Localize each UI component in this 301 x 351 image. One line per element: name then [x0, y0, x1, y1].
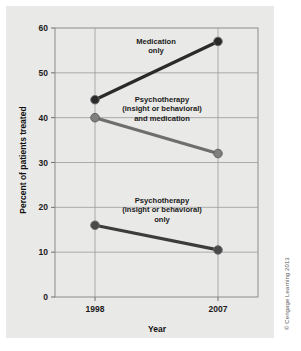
annotation-line-1: Psychotherapy [110, 196, 214, 205]
y-tick-label-50: 50 [26, 68, 48, 78]
data-point-psychotherapy-only-1998 [91, 221, 100, 230]
series-line-psychotherapy-only [95, 225, 218, 250]
series-annotation-medication-only: Medication only [114, 37, 198, 56]
series-annotation-psychotherapy-and-medication: Psychotherapy (insight or behavioral) an… [110, 95, 214, 123]
x-axis-ticks [95, 297, 218, 301]
annotation-line-3: and medication [110, 114, 214, 123]
data-point-psychotherapy-only-2007 [214, 246, 223, 255]
data-point-psychotherapy-and-medication-1998 [91, 113, 100, 122]
annotation-line-2: only [114, 46, 198, 55]
annotation-line-1: Psychotherapy [110, 95, 214, 104]
y-tick-label-30: 30 [26, 158, 48, 168]
data-point-medication-only-1998 [91, 95, 100, 104]
chart-figure: 60 50 40 20 30 10 0 1998 2007 Percent of… [0, 0, 301, 351]
annotation-line-1: Medication [114, 37, 198, 46]
y-axis-ticks [51, 28, 55, 297]
y-axis-title: Percent of patients treated [18, 90, 28, 230]
y-tick-label-60: 60 [26, 23, 48, 33]
y-tick-label-20: 20 [26, 202, 48, 212]
annotation-line-2: (insight or behavioral) [110, 205, 214, 214]
x-tick-label-2007: 2007 [195, 304, 241, 314]
series-psychotherapy-only [91, 221, 223, 254]
y-tick-label-0: 0 [26, 292, 48, 302]
annotation-line-2: (insight or behavioral) [110, 104, 214, 113]
copyright-credit: © Cengage Learning 2013 [284, 238, 290, 330]
y-tick-label-10: 10 [26, 247, 48, 257]
annotation-line-3: only [110, 215, 214, 224]
x-tick-label-1998: 1998 [72, 304, 118, 314]
series-annotation-psychotherapy-only: Psychotherapy (insight or behavioral) on… [110, 196, 214, 224]
data-point-psychotherapy-and-medication-2007 [214, 149, 223, 158]
data-point-medication-only-2007 [214, 37, 223, 46]
y-tick-label-40: 40 [26, 113, 48, 123]
x-axis-title: Year [55, 324, 259, 334]
